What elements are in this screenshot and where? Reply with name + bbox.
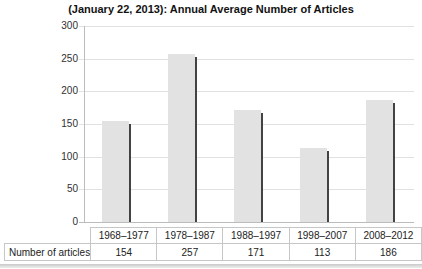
value-row: Number of articles154257171113186 [5,244,422,261]
category-cell-3: 1988–1997 [223,228,289,244]
category-cell-4: 1998–2007 [289,228,355,244]
y-axis-tick-label-100: 100 [28,151,78,163]
value-cell-5: 186 [355,244,421,261]
category-row: 1968–19771978–19871988–19971998–20072008… [5,228,422,244]
row-label-cell: Number of articles [5,244,91,261]
gridline-250 [79,59,414,60]
data-table: 1968–19771978–19871988–19971998–20072008… [4,227,422,261]
bar-3 [234,110,261,222]
y-axis-tick-label-150: 150 [28,118,78,130]
bar-2 [168,54,195,222]
value-cell-2: 257 [157,244,223,261]
category-cell-2: 1978–1987 [157,228,223,244]
bar-4 [300,148,327,222]
y-axis-tick-label-300: 300 [28,20,78,32]
y-axis-tick-label-200: 200 [28,85,78,97]
bar-chart-figure: (January 22, 2013): Annual Average Numbe… [0,0,422,269]
gridline-200 [79,91,414,92]
y-axis-line [84,26,85,223]
value-cell-3: 171 [223,244,289,261]
x-axis-line [79,222,414,223]
bar-1 [102,121,129,222]
chart-title: (January 22, 2013): Annual Average Numbe… [0,3,422,15]
value-cell-4: 113 [289,244,355,261]
y-axis-tick-label-50: 50 [28,183,78,195]
category-cell-5: 2008–2012 [355,228,421,244]
value-cell-1: 154 [91,244,157,261]
category-cell-1: 1968–1977 [91,228,157,244]
y-axis-tick-label-250: 250 [28,53,78,65]
gridline-300 [79,26,414,27]
table-corner-spacer [5,228,91,244]
bottom-shadow [0,264,422,268]
bar-5 [366,100,393,222]
